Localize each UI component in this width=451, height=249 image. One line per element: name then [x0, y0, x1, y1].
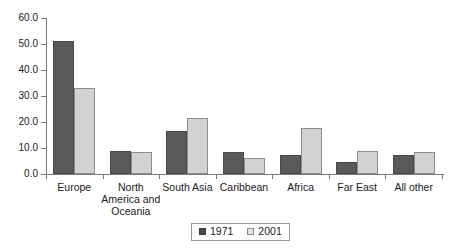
- bar-2001-south-asia: [187, 118, 208, 174]
- legend-item-1971: 1971: [199, 226, 233, 237]
- legend-label-2001: 2001: [258, 226, 281, 237]
- bar-1971-south-asia: [166, 131, 187, 174]
- x-axis-line: [46, 174, 444, 175]
- bar-group: [272, 18, 329, 174]
- bar-2001-africa: [301, 128, 322, 174]
- bar-2001-all-other: [414, 152, 435, 174]
- x-axis-tick: [272, 175, 273, 179]
- y-axis-tick-label: 20.0: [0, 117, 38, 127]
- x-axis-tick: [46, 175, 47, 179]
- chart-legend: 1971 2001: [191, 223, 290, 241]
- bar-1971-far-east: [336, 162, 357, 174]
- y-axis-tick-label: 60.0: [0, 13, 38, 23]
- y-axis-tick-label: 40.0: [0, 65, 38, 75]
- bar-1971-caribbean: [223, 152, 244, 174]
- bar-2001-north-america-and-oceania: [131, 152, 152, 174]
- bar-group: [329, 18, 386, 174]
- x-axis-tick: [329, 175, 330, 179]
- x-axis-tick: [159, 175, 160, 179]
- bar-1971-africa: [280, 155, 301, 175]
- bar-group: [216, 18, 273, 174]
- x-axis-tick: [442, 175, 443, 179]
- bar-1971-europe: [53, 41, 74, 174]
- x-axis-tick: [103, 175, 104, 179]
- y-axis-tick-label: 0.0: [0, 169, 38, 179]
- legend-swatch-icon-1971: [199, 228, 206, 235]
- bar-2001-europe: [74, 88, 95, 174]
- legend-swatch-icon-2001: [247, 228, 254, 235]
- bar-2001-far-east: [357, 151, 378, 174]
- bar-group: [385, 18, 442, 174]
- y-axis-tick-label: 50.0: [0, 39, 38, 49]
- bar-group: [159, 18, 216, 174]
- x-axis-label-all-other: All other: [371, 181, 451, 193]
- legend-item-2001: 2001: [247, 226, 281, 237]
- y-axis-tick-label: 30.0: [0, 91, 38, 101]
- bar-group: [46, 18, 103, 174]
- legend-label-1971: 1971: [210, 226, 233, 237]
- bar-chart: 0.010.020.030.040.050.060.0 EuropeNorthA…: [0, 0, 451, 249]
- y-axis-tick-label: 10.0: [0, 143, 38, 153]
- bar-1971-north-america-and-oceania: [110, 151, 131, 174]
- bar-1971-all-other: [393, 155, 414, 174]
- x-axis-tick: [385, 175, 386, 179]
- bar-2001-caribbean: [244, 158, 265, 174]
- x-axis-tick: [216, 175, 217, 179]
- bar-group: [103, 18, 160, 174]
